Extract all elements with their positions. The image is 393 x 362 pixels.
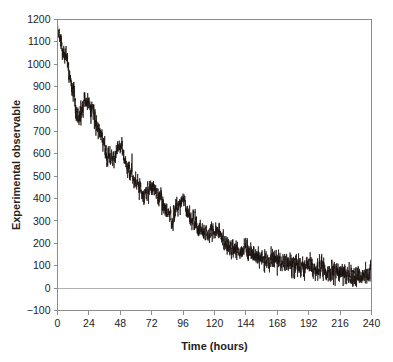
x-tick-label: 0 [55,317,61,329]
y-tick-label: 0 [45,282,51,294]
x-tick-label: 72 [146,317,158,329]
x-tick-label: 24 [83,317,95,329]
y-tick-label: 800 [33,103,51,115]
x-axis-tick-marks [58,311,372,315]
y-tick-label: 500 [33,170,51,182]
y-tick-label: 1000 [27,58,51,70]
y-tick-label: 900 [33,80,51,92]
x-tick-label: 120 [206,317,224,329]
y-tick-label: 600 [33,147,51,159]
x-tick-label: 240 [363,317,381,329]
y-tick-label: −100 [27,304,51,316]
y-tick-label: 1100 [28,35,51,47]
data-trace-experimental-observable [58,25,372,287]
x-tick-label: 144 [237,317,255,329]
x-axis-title: Time (hours) [181,340,248,352]
y-tick-label: 300 [33,215,51,227]
y-axis-tick-labels: −100010020030040050060070080090010001100… [27,13,51,316]
x-tick-label: 48 [114,317,126,329]
x-tick-label: 192 [300,317,318,329]
y-axis-tick-marks [54,20,58,311]
y-axis-title: Experimental observable [10,100,22,230]
x-tick-label: 168 [269,317,287,329]
chart-figure: −100010020030040050060070080090010001100… [0,0,393,362]
chart-svg: −100010020030040050060070080090010001100… [0,0,393,362]
x-axis-tick-labels: 024487296120144168192216240 [55,317,381,329]
x-tick-label: 96 [177,317,189,329]
y-tick-label: 1200 [27,13,51,25]
y-tick-label: 700 [33,125,51,137]
x-tick-label: 216 [331,317,349,329]
y-tick-label: 200 [33,237,51,249]
y-tick-label: 100 [33,259,51,271]
y-tick-label: 400 [33,192,51,204]
